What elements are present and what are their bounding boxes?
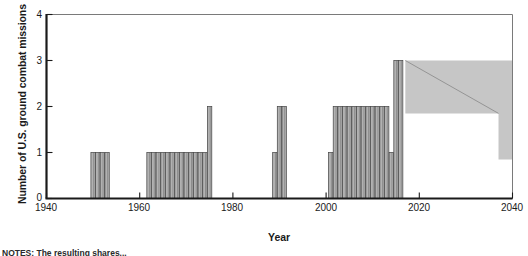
bar: [175, 153, 179, 199]
bar: [282, 107, 286, 199]
projection-band-area: [405, 61, 512, 160]
bar: [193, 153, 197, 199]
x-tick-label-1960: 1960: [119, 203, 159, 213]
bar: [277, 107, 281, 199]
chart-plot-area: [0, 0, 528, 256]
y-tick-label-2: 2: [20, 102, 42, 112]
bar: [389, 153, 393, 199]
y-tick-label-1: 1: [20, 148, 42, 158]
bar: [343, 107, 347, 199]
bar: [361, 107, 365, 199]
bar: [371, 107, 375, 199]
x-tick-label-1940: 1940: [26, 203, 66, 213]
bar: [347, 107, 351, 199]
x-tick-label-2020: 2020: [399, 203, 439, 213]
bar: [189, 153, 193, 199]
projection-band: [405, 61, 512, 160]
bar: [184, 153, 188, 199]
bar-series: [91, 61, 403, 199]
bar: [105, 153, 109, 199]
chart-figure: Number of U.S. ground combat missions 4 …: [0, 0, 528, 256]
bar: [151, 153, 155, 199]
bar: [203, 153, 207, 199]
y-tick-label-4: 4: [20, 10, 42, 20]
bar: [394, 61, 398, 199]
x-axis-title: Year: [46, 231, 512, 243]
footer-note: NOTES: The resulting shares...: [2, 249, 432, 256]
bar: [384, 107, 388, 199]
bar: [338, 107, 342, 199]
bar: [96, 153, 100, 199]
bar: [179, 153, 183, 199]
bar: [273, 153, 277, 199]
bar: [380, 107, 384, 199]
bar: [165, 153, 169, 199]
y-tick-label-3: 3: [20, 56, 42, 66]
bar: [161, 153, 165, 199]
bar: [333, 107, 337, 199]
x-tick-label-2040: 2040: [492, 203, 528, 213]
x-tick-label-2000: 2000: [306, 203, 346, 213]
bar: [366, 107, 370, 199]
bar: [207, 107, 211, 199]
bar: [198, 153, 202, 199]
bar: [357, 107, 361, 199]
bar: [329, 153, 333, 199]
bar: [147, 153, 151, 199]
x-tick-label-1980: 1980: [212, 203, 252, 213]
bar: [91, 153, 95, 199]
bar: [398, 61, 402, 199]
bar: [170, 153, 174, 199]
bar: [375, 107, 379, 199]
bar: [352, 107, 356, 199]
bar: [100, 153, 104, 199]
bar: [156, 153, 160, 199]
